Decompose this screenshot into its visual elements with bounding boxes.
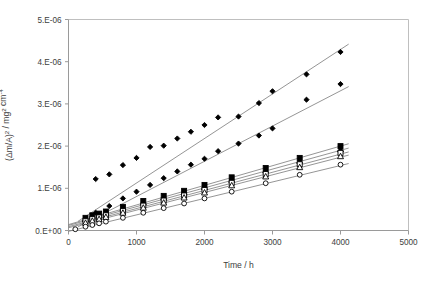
x-axis-ticks bbox=[69, 231, 409, 235]
trendline-series-6 bbox=[69, 155, 349, 228]
trendline-series-1 bbox=[78, 44, 349, 221]
x-tick-label: 0 bbox=[66, 238, 71, 247]
data-point-filled-diamond bbox=[134, 189, 139, 194]
data-point-filled-diamond bbox=[107, 203, 112, 208]
x-axis-tick-labels: 010002000300040005000 bbox=[66, 238, 418, 247]
plot-frame bbox=[69, 20, 409, 231]
data-point-open-circle bbox=[121, 215, 126, 220]
y-tick-label: 0.E+00 bbox=[35, 227, 62, 236]
data-point-filled-diamond bbox=[93, 176, 98, 181]
series-markers bbox=[73, 49, 344, 231]
x-tick-label: 1000 bbox=[127, 238, 146, 247]
trendline-series-2 bbox=[78, 87, 349, 227]
data-point-open-circle bbox=[73, 227, 78, 232]
data-point-filled-diamond bbox=[161, 176, 166, 181]
y-tick-label: 1.E-06 bbox=[37, 184, 62, 193]
data-point-open-circle bbox=[338, 162, 343, 167]
y-tick-label: 4.E-06 bbox=[37, 58, 62, 67]
y-axis-title-text: (Δm/A)2 / mg2 cm-4 bbox=[0, 88, 14, 161]
data-point-filled-diamond bbox=[120, 196, 125, 201]
data-point-filled-diamond bbox=[107, 172, 112, 177]
data-point-open-circle bbox=[182, 201, 187, 206]
data-point-filled-diamond bbox=[175, 136, 180, 141]
series-series-1 bbox=[93, 49, 343, 181]
data-point-open-circle bbox=[229, 189, 234, 194]
data-point-filled-diamond bbox=[216, 115, 221, 120]
data-point-filled-diamond bbox=[148, 182, 153, 187]
trendline-series-4 bbox=[69, 148, 349, 225]
x-tick-label: 3000 bbox=[263, 238, 282, 247]
x-axis-title: Time / h bbox=[223, 260, 254, 270]
y-axis-tick-labels: 0.E+001.E-062.E-063.E-064.E-065.E-06 bbox=[35, 16, 62, 236]
data-point-filled-diamond bbox=[134, 155, 139, 160]
data-point-filled-diamond bbox=[304, 97, 309, 102]
data-point-open-circle bbox=[161, 206, 166, 211]
data-point-open-circle bbox=[97, 221, 102, 226]
x-tick-label: 5000 bbox=[399, 238, 418, 247]
data-point-filled-diamond bbox=[188, 162, 193, 167]
y-axis-title: (Δm/A)2 / mg2 cm-4 bbox=[0, 88, 14, 161]
y-axis-ticks bbox=[65, 20, 69, 231]
data-point-filled-diamond bbox=[148, 144, 153, 149]
trendline-series-3 bbox=[69, 144, 349, 225]
data-point-filled-diamond bbox=[202, 122, 207, 127]
data-point-open-circle bbox=[83, 224, 88, 229]
x-tick-label: 2000 bbox=[195, 238, 214, 247]
data-point-filled-diamond bbox=[120, 162, 125, 167]
data-point-open-circle bbox=[141, 210, 146, 215]
chart-container: 0.E+001.E-062.E-063.E-064.E-065.E-06 010… bbox=[0, 0, 433, 283]
data-point-open-circle bbox=[90, 223, 95, 228]
data-point-filled-diamond bbox=[338, 81, 343, 86]
x-tick-label: 4000 bbox=[331, 238, 350, 247]
data-point-open-circle bbox=[104, 219, 109, 224]
data-point-filled-diamond bbox=[338, 49, 343, 54]
y-tick-label: 3.E-06 bbox=[37, 100, 62, 109]
scatter-plot: 0.E+001.E-062.E-063.E-064.E-065.E-06 010… bbox=[0, 0, 433, 283]
data-point-filled-diamond bbox=[161, 143, 166, 148]
y-tick-label: 5.E-06 bbox=[37, 16, 62, 25]
trendline-series-5 bbox=[69, 152, 349, 227]
data-point-open-circle bbox=[202, 196, 207, 201]
data-point-filled-diamond bbox=[175, 169, 180, 174]
y-tick-label: 2.E-06 bbox=[37, 142, 62, 151]
data-point-filled-diamond bbox=[236, 141, 241, 146]
data-point-open-circle bbox=[263, 181, 268, 186]
data-point-filled-diamond bbox=[188, 129, 193, 134]
data-point-open-circle bbox=[297, 172, 302, 177]
series-series-7 bbox=[73, 162, 343, 231]
x-axis-title-text: Time / h bbox=[223, 260, 254, 270]
